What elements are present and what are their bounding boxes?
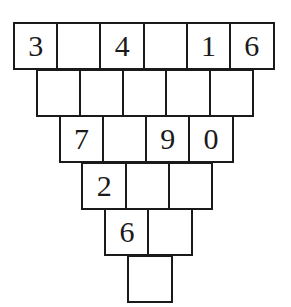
pyramid-cell[interactable] [147, 208, 193, 256]
pyramid-cell[interactable]: 9 [145, 115, 191, 163]
pyramid-cell[interactable] [79, 69, 125, 117]
pyramid-cell[interactable] [122, 69, 168, 117]
pyramid-cell[interactable] [165, 69, 211, 117]
pyramid-row-2 [36, 69, 254, 117]
pyramid-cell[interactable] [36, 69, 82, 117]
pyramid-cell[interactable] [127, 255, 173, 303]
pyramid-cell[interactable]: 3 [13, 22, 59, 70]
pyramid-row-3: 7 9 0 [59, 115, 234, 163]
pyramid-cell[interactable]: 4 [99, 22, 145, 70]
number-pyramid-puzzle: 3 4 1 6 7 9 0 2 6 [0, 0, 291, 307]
pyramid-cell[interactable]: 6 [229, 22, 275, 70]
pyramid-cell[interactable] [56, 22, 102, 70]
pyramid-row-6 [127, 255, 173, 303]
pyramid-row-4: 2 [81, 162, 213, 210]
pyramid-cell[interactable] [102, 115, 148, 163]
pyramid-row-5: 6 [104, 208, 193, 256]
pyramid-cell[interactable]: 2 [81, 162, 127, 210]
pyramid-cell[interactable]: 1 [186, 22, 232, 70]
pyramid-cell[interactable]: 7 [59, 115, 105, 163]
pyramid-cell[interactable] [143, 22, 189, 70]
pyramid-cell[interactable]: 0 [188, 115, 234, 163]
pyramid-cell[interactable] [168, 162, 214, 210]
pyramid-row-1: 3 4 1 6 [13, 22, 275, 70]
pyramid-cell[interactable] [125, 162, 171, 210]
pyramid-cell[interactable]: 6 [104, 208, 150, 256]
pyramid-cell[interactable] [209, 69, 255, 117]
